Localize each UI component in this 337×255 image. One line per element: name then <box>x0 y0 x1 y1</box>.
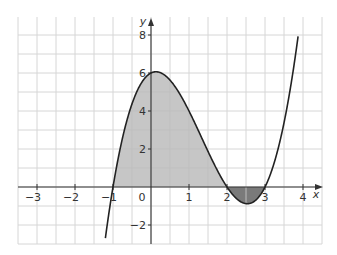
y-tick-label: 8 <box>139 29 146 42</box>
x-tick-label: −1 <box>101 191 117 204</box>
x-tick-label: 2 <box>224 191 231 204</box>
y-tick-label: −2 <box>130 219 146 232</box>
y-axis-arrow-icon <box>148 18 154 26</box>
x-tick-label: −2 <box>63 191 79 204</box>
x-tick-label: −3 <box>25 191 41 204</box>
x-axis-label: x <box>312 188 320 201</box>
y-tick-label: 2 <box>139 143 146 156</box>
cubic-graph: −3−2−101234−22468xy <box>0 0 337 255</box>
x-tick-label: 0 <box>139 191 146 204</box>
y-tick-label: 6 <box>139 67 146 80</box>
x-tick-label: 4 <box>300 191 307 204</box>
y-tick-label: 4 <box>139 105 146 118</box>
x-tick-label: 3 <box>262 191 269 204</box>
x-tick-label: 1 <box>186 191 193 204</box>
y-axis-label: y <box>139 15 147 28</box>
